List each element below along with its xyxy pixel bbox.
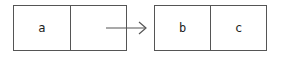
- arrow-icon: [106, 19, 150, 37]
- right-node-box: b c: [154, 5, 267, 51]
- right-node-cell-c: c: [210, 6, 266, 50]
- left-node-cell-a: a: [14, 6, 70, 50]
- right-node-cell-b: b: [155, 6, 210, 50]
